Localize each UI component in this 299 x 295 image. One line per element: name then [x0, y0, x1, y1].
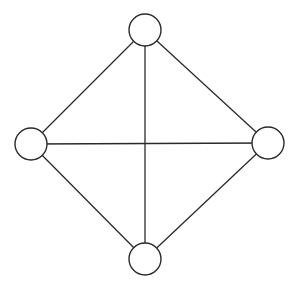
- node-top: [129, 14, 161, 46]
- graph-diagram: [0, 0, 299, 295]
- edge-left-right: [31, 143, 268, 144]
- edge-top-right: [145, 30, 268, 143]
- node-bottom: [129, 243, 161, 275]
- edges-group: [31, 30, 268, 259]
- node-right: [252, 127, 284, 159]
- node-left: [15, 128, 47, 160]
- edge-right-bottom: [145, 143, 268, 259]
- edge-left-bottom: [31, 144, 145, 259]
- edge-top-left: [31, 30, 145, 144]
